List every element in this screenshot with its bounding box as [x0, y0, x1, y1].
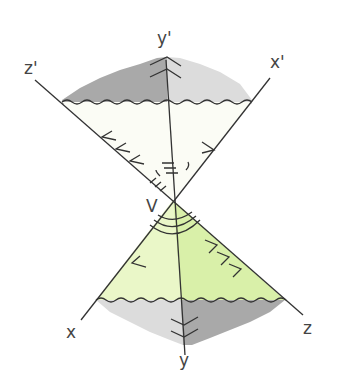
- label-x: x: [66, 322, 76, 342]
- label-z: z: [303, 318, 312, 338]
- label-z-prime: z': [24, 58, 38, 78]
- upper-gray-region: [62, 57, 252, 104]
- vertical-angles-diagram: y' z' x' V x y z: [0, 0, 339, 384]
- label-y-prime: y': [157, 28, 172, 48]
- label-x-prime: x': [270, 52, 285, 72]
- label-y: y: [179, 350, 189, 370]
- label-vertex: V: [146, 196, 158, 216]
- lower-gray-region: [96, 300, 285, 345]
